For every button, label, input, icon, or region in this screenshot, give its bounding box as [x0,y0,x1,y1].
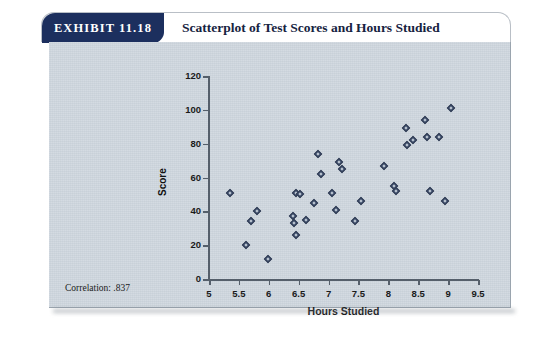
data-point [317,170,325,178]
data-point [435,133,443,141]
data-point [247,217,255,225]
exhibit-card-body: 02040608010012055.566.577.588.599.5Score… [49,42,511,308]
scatter-plot: 02040608010012055.566.577.588.599.5Score… [49,42,511,308]
x-tick [269,280,271,285]
y-tick-label: 100 [167,104,201,115]
data-point [421,116,429,124]
x-tick [478,280,480,285]
x-tick [329,280,331,285]
exhibit-number-label: EXHIBIT 11.18 [54,21,152,36]
data-point [296,190,304,198]
x-tick [418,280,420,285]
data-point [253,207,261,215]
x-axis-line [208,279,479,281]
y-tick-label: 0 [167,273,201,284]
y-tick-label: 60 [167,172,201,183]
x-tick-label: 9.5 [460,288,496,299]
data-point [327,188,335,196]
data-point [447,104,455,112]
x-tick [448,280,450,285]
x-tick [299,280,301,285]
data-point [242,241,250,249]
data-point [263,254,271,262]
x-tick [239,280,241,285]
x-tick [388,280,390,285]
x-tick [209,280,211,285]
data-point [351,217,359,225]
exhibit-number-badge: EXHIBIT 11.18 [42,13,164,43]
y-tick [203,211,208,213]
y-tick-label: 40 [167,205,201,216]
data-point [314,150,322,158]
data-point [441,197,449,205]
y-tick-label: 120 [167,70,201,81]
x-tick [358,280,360,285]
data-point [423,133,431,141]
exhibit-title: Scatterplot of Test Scores and Hours Stu… [182,20,440,36]
data-point [337,165,345,173]
exhibit-card: EXHIBIT 11.18 Scatterplot of Test Scores… [41,12,511,310]
data-point [331,205,339,213]
y-tick [203,178,208,180]
y-tick [203,76,208,78]
data-point [357,197,365,205]
correlation-note: Correlation: .837 [65,283,130,293]
data-point [291,231,299,239]
y-tick [203,279,208,281]
data-point [379,161,387,169]
y-tick [203,110,208,112]
data-point [402,124,410,132]
data-point [426,187,434,195]
y-axis-line [208,76,210,279]
data-point [309,199,317,207]
y-tick-label: 20 [167,239,201,250]
data-point [290,219,298,227]
data-point [226,188,234,196]
y-tick [203,245,208,247]
card-shadow [53,309,515,313]
y-tick [203,144,208,146]
data-point [302,216,310,224]
exhibit-card-header: EXHIBIT 11.18 Scatterplot of Test Scores… [41,12,511,42]
y-axis-title: Score [157,168,168,196]
y-tick-label: 80 [167,138,201,149]
